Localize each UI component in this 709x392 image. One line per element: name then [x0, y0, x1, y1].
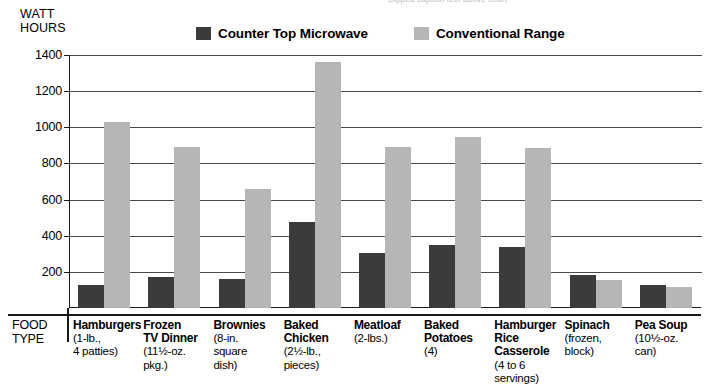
x-axis-category-label: Brownies(8-in.squaredish)	[213, 319, 279, 372]
bars-layer	[69, 55, 701, 308]
x-axis-category-label: Meatloaf(2-lbs.)	[354, 319, 420, 345]
bar-microwave	[219, 279, 245, 308]
category-sub-line: (2-lbs.)	[354, 332, 420, 345]
category-name-line: Chicken	[284, 332, 350, 345]
category-sub-line: (11½-oz.	[143, 345, 209, 358]
x-axis-category-label: Spinach(frozen,block)	[565, 319, 631, 359]
category-sub-line: (8-in.	[213, 332, 279, 345]
x-axis-corner-divider	[67, 308, 69, 342]
y-axis-tick-label-1200: 1200	[18, 84, 62, 98]
x-axis-category-label: Hamburgers(1-lb.,4 patties)	[73, 319, 139, 359]
category-sub-line: servings)	[494, 372, 560, 385]
category-sub-line: block)	[565, 345, 631, 358]
category-sub-line: (10½-oz.	[635, 332, 701, 345]
x-axis-category-label: BakedPotatoes(4)	[424, 319, 490, 359]
clipped-top-caption: clipped caption text above chart	[0, 0, 709, 8]
bar-microwave	[289, 222, 315, 308]
bar-conventional-range	[455, 137, 481, 308]
legend-label-microwave: Counter Top Microwave	[218, 26, 368, 41]
x-axis-category-label: HamburgerRiceCasserole(4 to 6servings)	[494, 319, 560, 385]
bar-conventional-range	[245, 189, 271, 308]
bar-microwave	[78, 285, 104, 308]
category-sub-line: (frozen,	[565, 332, 631, 345]
bar-microwave	[148, 277, 174, 308]
category-sub-line: square	[213, 345, 279, 358]
category-sub-line: (2½-lb.,	[284, 345, 350, 358]
chart-legend: Counter Top MicrowaveConventional Range	[196, 26, 565, 41]
x-axis-corner-line1: FOOD	[12, 319, 47, 333]
category-sub-line: pkg.)	[143, 359, 209, 372]
bar-conventional-range	[385, 147, 411, 308]
y-axis-tick-label-1400: 1400	[18, 48, 62, 62]
y-axis-tick-label-800: 800	[18, 156, 62, 170]
y-axis-title-line2: HOURS	[20, 22, 66, 36]
category-name-line: Casserole	[494, 345, 560, 358]
category-name-line: Brownies	[213, 319, 279, 332]
bar-group	[640, 55, 692, 308]
y-axis-tick-label-200: 200	[18, 265, 62, 279]
category-name-line: Pea Soup	[635, 319, 701, 332]
bar-group	[359, 55, 411, 308]
legend-swatch-microwave	[196, 27, 211, 40]
category-name-line: Potatoes	[424, 332, 490, 345]
y-axis-tick-label-600: 600	[18, 193, 62, 207]
category-sub-line: (1-lb.,	[73, 332, 139, 345]
category-name-line: Meatloaf	[354, 319, 420, 332]
category-name-line: TV Dinner	[143, 332, 209, 345]
clipped-caption-text: clipped caption text above chart	[388, 0, 507, 4]
category-sub-line: (4)	[424, 345, 490, 358]
bar-conventional-range	[525, 148, 551, 308]
bar-group	[148, 55, 200, 308]
legend-label-range: Conventional Range	[436, 26, 565, 41]
bar-conventional-range	[596, 280, 622, 308]
bar-conventional-range	[174, 147, 200, 308]
bar-group	[499, 55, 551, 308]
x-axis-label-table: FOOD TYPE Hamburgers(1-lb.,4 patties)Fro…	[0, 308, 709, 392]
y-axis-title-line1: WATT	[20, 8, 66, 22]
bar-microwave	[499, 247, 525, 308]
bar-microwave	[359, 253, 385, 308]
bar-group	[78, 55, 130, 308]
y-axis-title: WATT HOURS	[20, 8, 66, 35]
x-axis-corner-line2: TYPE	[12, 333, 47, 347]
category-name-line: Hamburgers	[73, 319, 139, 332]
bar-group	[219, 55, 271, 308]
x-axis-corner-label: FOOD TYPE	[12, 319, 47, 346]
category-sub-line: 4 patties)	[73, 345, 139, 358]
bar-conventional-range	[104, 122, 130, 308]
y-axis-tick-label-400: 400	[18, 229, 62, 243]
x-axis-category-label: BakedChicken(2½-lb.,pieces)	[284, 319, 350, 372]
category-sub-line: dish)	[213, 359, 279, 372]
legend-entry-microwave: Counter Top Microwave	[196, 26, 368, 41]
legend-entry-range: Conventional Range	[414, 26, 565, 41]
legend-swatch-range	[414, 27, 429, 40]
category-sub-line: pieces)	[284, 359, 350, 372]
x-axis-category-label: Pea Soup(10½-oz.can)	[635, 319, 701, 359]
x-axis-category-label: FrozenTV Dinner(11½-oz.pkg.)	[143, 319, 209, 372]
bar-microwave	[570, 275, 596, 308]
x-axis-rule	[8, 314, 701, 316]
category-name-line: Spinach	[565, 319, 631, 332]
bar-conventional-range	[315, 62, 341, 308]
category-sub-line: (4 to 6	[494, 359, 560, 372]
y-axis-tick-label-1000: 1000	[18, 120, 62, 134]
watt-hours-bar-chart: clipped caption text above chart WATT HO…	[0, 0, 709, 392]
bar-group	[429, 55, 481, 308]
bar-group	[570, 55, 622, 308]
bar-microwave	[429, 245, 455, 308]
category-sub-line: can)	[635, 345, 701, 358]
bar-conventional-range	[666, 287, 692, 308]
bar-group	[289, 55, 341, 308]
bar-microwave	[640, 285, 666, 308]
